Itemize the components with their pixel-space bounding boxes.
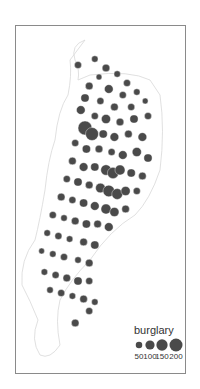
- burglary-symbol: [72, 139, 79, 146]
- burglary-symbol: [110, 207, 119, 216]
- burglary-symbol: [90, 202, 99, 211]
- burglary-symbol: [80, 238, 88, 246]
- burglary-symbol: [69, 157, 77, 165]
- burglary-symbol: [63, 175, 70, 182]
- burglary-symbols: [39, 56, 152, 327]
- legend-symbol: [145, 340, 154, 349]
- burglary-symbol: [49, 211, 56, 218]
- burglary-symbol: [97, 97, 104, 104]
- burglary-symbol: [94, 220, 102, 228]
- burglary-symbol: [91, 163, 99, 171]
- burglary-symbol: [58, 289, 65, 296]
- burglary-symbol: [71, 217, 79, 225]
- burglary-symbol: [85, 82, 93, 90]
- burglary-symbol: [127, 169, 135, 177]
- burglary-symbol: [82, 145, 90, 153]
- burglary-symbol: [134, 89, 141, 96]
- burglary-symbol: [96, 74, 102, 80]
- burglary-symbol: [104, 85, 113, 94]
- burglary-symbol: [76, 106, 85, 115]
- burglary-symbol: [102, 64, 110, 72]
- burglary-symbol: [121, 186, 130, 195]
- legend-title: burglary: [134, 324, 174, 336]
- burglary-symbol: [99, 130, 107, 138]
- burglary-symbol: [85, 181, 93, 189]
- legend-symbol: [136, 342, 143, 349]
- burglary-symbol: [91, 112, 98, 119]
- burglary-symbol: [138, 133, 147, 142]
- burglary-symbol: [79, 163, 88, 172]
- burglary-symbol: [61, 215, 68, 222]
- burglary-symbol: [80, 295, 88, 303]
- burglary-symbol: [86, 128, 99, 141]
- burglary-symbol: [86, 307, 93, 314]
- burglary-symbol: [139, 172, 147, 180]
- burglary-symbol: [69, 196, 76, 203]
- burglary-symbol: [74, 277, 82, 285]
- legend: burglary 50100150200: [134, 324, 183, 361]
- burglary-symbol: [142, 98, 148, 104]
- burglary-symbol: [128, 103, 135, 110]
- burglary-symbol: [55, 232, 62, 239]
- burglary-symbol: [132, 147, 141, 156]
- burglary-symbol: [123, 79, 130, 86]
- burglary-symbol: [114, 71, 121, 78]
- burglary-symbol: [39, 248, 45, 254]
- burglary-symbol: [95, 145, 103, 153]
- burglary-symbol: [60, 253, 67, 260]
- burglary-symbol: [44, 230, 51, 237]
- burglary-symbol: [52, 271, 59, 278]
- burglary-symbol: [75, 257, 82, 264]
- burglary-symbol: [41, 269, 48, 276]
- burglary-symbol: [92, 299, 99, 306]
- burglary-symbol: [144, 112, 151, 119]
- burglary-symbol: [74, 61, 81, 68]
- burglary-symbol: [116, 118, 124, 126]
- burglary-symbol: [104, 223, 113, 232]
- legend-label: 200: [169, 352, 183, 361]
- burglary-symbol: [115, 165, 125, 175]
- burglary-symbol: [69, 293, 76, 300]
- burglary-symbol: [144, 154, 152, 162]
- burglary-symbol: [85, 259, 93, 267]
- burglary-symbol: [101, 114, 110, 123]
- burglary-symbol: [63, 274, 71, 282]
- burglary-symbol: [71, 319, 79, 327]
- burglary-symbol: [91, 241, 99, 249]
- burglary-symbol: [81, 94, 89, 102]
- legend-label: 150: [155, 352, 169, 361]
- burglary-symbol: [133, 187, 140, 194]
- burglary-symbol: [92, 56, 99, 63]
- burglary-symbol: [110, 133, 119, 142]
- burglary-symbol: [66, 236, 73, 243]
- burglary-symbol: [118, 151, 127, 160]
- burglary-symbol: [111, 103, 119, 111]
- burglary-symbol: [79, 199, 87, 207]
- legend-symbol: [156, 339, 167, 350]
- burglary-symbol: [122, 205, 130, 213]
- burglary-symbol: [57, 193, 65, 201]
- burglary-symbol: [101, 204, 111, 214]
- burglary-symbol: [47, 287, 54, 294]
- burglary-symbol: [86, 277, 93, 284]
- legend-symbol: [170, 339, 183, 352]
- burglary-symbol: [125, 130, 133, 138]
- burglary-symbol: [74, 178, 82, 186]
- burglary-symbol: [82, 220, 90, 228]
- burglary-symbol: [108, 148, 115, 155]
- proportional-symbol-map: burglary 50100150200: [0, 0, 200, 389]
- burglary-symbol: [50, 251, 57, 258]
- burglary-symbol: [130, 115, 138, 123]
- burglary-symbol: [119, 91, 126, 98]
